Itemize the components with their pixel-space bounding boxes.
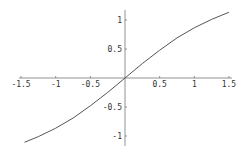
y-tick-label: -1: [112, 132, 122, 141]
chart: -1.5-1-0.50.511.5 10.5-0.5-1: [0, 0, 249, 155]
x-tick-label: -1: [51, 80, 61, 89]
x-tick-label: 1.5: [222, 80, 237, 89]
y-tick-label: 0.5: [108, 45, 123, 54]
x-tick-label: 1: [192, 80, 197, 89]
x-tick-label: -1.5: [11, 80, 30, 89]
x-axis: -1.5-1-0.50.511.5: [11, 76, 236, 89]
x-tick-label: -0.5: [81, 80, 100, 89]
x-tick-label: 0.5: [152, 80, 167, 89]
data-curve: [25, 12, 229, 142]
y-tick-label: -0.5: [103, 103, 122, 112]
y-tick-label: 1: [117, 16, 122, 25]
